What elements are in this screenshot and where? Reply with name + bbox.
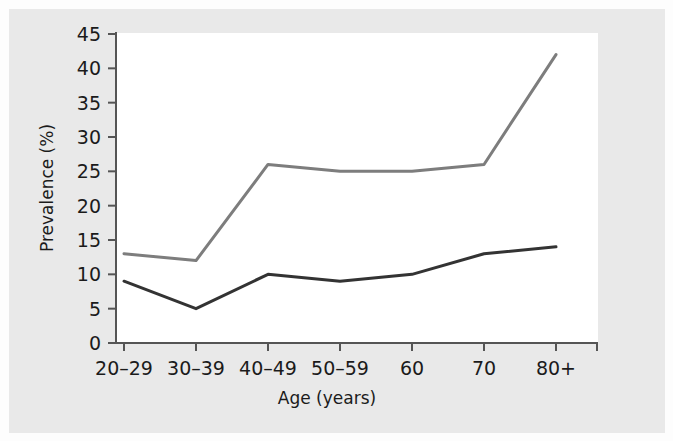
x-axis-tick-label: 50–59 bbox=[311, 357, 369, 379]
y-axis-tick-label: 30 bbox=[77, 126, 101, 148]
y-axis-tick-label: 15 bbox=[77, 229, 101, 251]
y-axis-tick-label: 25 bbox=[77, 160, 101, 182]
x-axis-tick-label: 80+ bbox=[536, 357, 576, 379]
y-axis-tick-label: 5 bbox=[89, 298, 101, 320]
figure-container: 051015202530354045 20–2930–3940–4950–596… bbox=[0, 0, 673, 441]
y-axis-tick-label: 20 bbox=[77, 195, 101, 217]
x-axis-tick-label: 30–39 bbox=[167, 357, 225, 379]
y-axis-tick-label: 45 bbox=[77, 23, 101, 45]
x-axis-tick-label: 60 bbox=[400, 357, 424, 379]
y-axis-tick-label: 0 bbox=[89, 332, 101, 354]
x-axis-tick-label: 40–49 bbox=[239, 357, 297, 379]
x-axis-title: Age (years) bbox=[278, 388, 376, 408]
x-axis-tick-label: 20–29 bbox=[95, 357, 153, 379]
x-axis-tick-label: 70 bbox=[472, 357, 496, 379]
y-axis-tick-label: 40 bbox=[77, 57, 101, 79]
y-axis-title: Prevalence (%) bbox=[37, 124, 57, 252]
y-axis-tick-label: 10 bbox=[77, 263, 101, 285]
line-chart: 051015202530354045 20–2930–3940–4950–596… bbox=[0, 0, 673, 441]
y-axis-tick-label: 35 bbox=[77, 92, 101, 114]
x-axis-ticks: 20–2930–3940–4950–59607080+ bbox=[95, 343, 597, 379]
y-axis-ticks: 051015202530354045 bbox=[77, 23, 116, 354]
plot-area bbox=[116, 33, 598, 343]
